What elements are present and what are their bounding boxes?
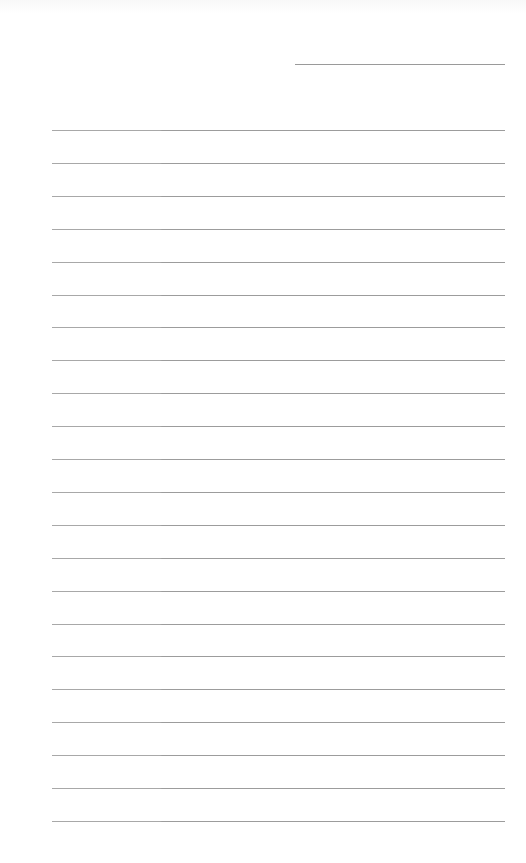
header-name-line <box>295 64 505 65</box>
ruled-line <box>52 689 505 690</box>
ruled-line <box>52 393 505 394</box>
ruled-line <box>52 788 505 789</box>
ruled-line <box>52 295 505 296</box>
ruled-line <box>52 821 505 822</box>
ruled-line <box>52 558 505 559</box>
ruled-line <box>52 229 505 230</box>
ruled-line <box>52 262 505 263</box>
ruled-line <box>52 459 505 460</box>
bleed-through-text <box>0 0 526 14</box>
ruled-line <box>52 656 505 657</box>
ruled-line <box>52 722 505 723</box>
ruled-line <box>52 196 505 197</box>
ruled-line <box>52 755 505 756</box>
ruled-line <box>52 130 505 131</box>
ruled-line <box>52 360 505 361</box>
ruled-line <box>52 525 505 526</box>
ruled-line <box>52 492 505 493</box>
ruled-line <box>52 591 505 592</box>
ruled-line <box>52 327 505 328</box>
ruled-line <box>52 624 505 625</box>
ruled-line <box>52 426 505 427</box>
ruled-line <box>52 163 505 164</box>
